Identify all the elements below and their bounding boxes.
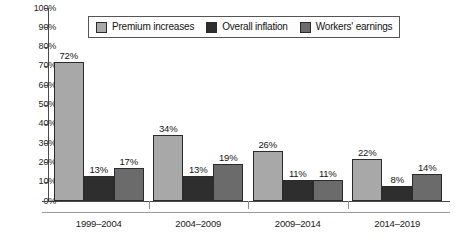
x-axis-category-labels: 1999–20042004–20092009–20142014–2019 — [49, 215, 447, 233]
category-separator — [348, 201, 349, 209]
category-label: 2004–2009 — [149, 215, 249, 233]
category-label: 2014–2019 — [348, 215, 448, 233]
y-tick-mark — [44, 201, 49, 202]
category-label: 1999–2004 — [49, 215, 149, 233]
bar[interactable] — [412, 174, 442, 201]
x-axis-line — [42, 201, 450, 202]
bar[interactable] — [153, 135, 183, 201]
legend-label: Premium increases — [112, 21, 194, 33]
legend-swatch-icon — [96, 22, 107, 33]
bar[interactable] — [283, 180, 313, 201]
bar-value-label: 22% — [358, 147, 376, 158]
bar[interactable] — [114, 168, 144, 201]
legend-item[interactable]: Workers' earnings — [300, 21, 393, 33]
bar-value-label: 72% — [60, 50, 78, 61]
bar-value-label: 13% — [90, 164, 108, 175]
bar[interactable] — [84, 176, 114, 201]
bar[interactable] — [352, 159, 382, 201]
category-separator — [149, 201, 150, 209]
legend-label: Overall inflation — [222, 21, 288, 33]
legend-item[interactable]: Premium increases — [96, 21, 194, 33]
bar[interactable] — [313, 180, 343, 201]
bar-value-label: 14% — [418, 162, 436, 173]
bar-value-label: 17% — [120, 156, 138, 167]
bar-value-label: 11% — [289, 168, 307, 179]
bar-chart: 100%90%80%70%60%50%40%30%20%10%0% 72%13%… — [0, 0, 455, 237]
bar[interactable] — [382, 186, 412, 201]
bar-value-label: 34% — [159, 123, 177, 134]
legend-label: Workers' earnings — [316, 21, 393, 33]
bar[interactable] — [253, 151, 283, 201]
bar[interactable] — [183, 176, 213, 201]
legend-swatch-icon — [206, 22, 217, 33]
bar-value-label: 19% — [219, 152, 237, 163]
legend-swatch-icon — [300, 22, 311, 33]
bar-value-label: 26% — [259, 139, 277, 150]
legend-item[interactable]: Overall inflation — [206, 21, 288, 33]
bar-value-label: 8% — [391, 174, 404, 185]
x-axis-baseline-rule — [42, 212, 450, 213]
bar-value-label: 13% — [189, 164, 207, 175]
category-label: 2009–2014 — [248, 215, 348, 233]
chart-legend: Premium increasesOverall inflationWorker… — [88, 16, 400, 38]
bar[interactable] — [213, 164, 243, 201]
bar-column[interactable]: 72% — [54, 8, 84, 201]
category-separator — [248, 201, 249, 209]
bar-column[interactable]: 14% — [412, 8, 442, 201]
bar[interactable] — [54, 62, 84, 201]
bar-value-label: 11% — [319, 168, 337, 179]
